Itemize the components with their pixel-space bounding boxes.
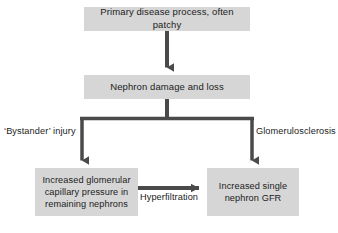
flowchart-diagram: Primary disease process, often patchy Ne… bbox=[0, 0, 338, 233]
node-primary-disease-process-label: Primary disease process, often patchy bbox=[84, 6, 250, 31]
node-increased-glomerular-capillary-pressure: Increased glomerular capillary pressure … bbox=[35, 168, 138, 216]
node-primary-disease-process: Primary disease process, often patchy bbox=[84, 7, 250, 31]
node-nephron-damage-and-loss: Nephron damage and loss bbox=[84, 75, 250, 99]
edge-label-hyperfiltration: Hyperfiltration bbox=[140, 192, 198, 203]
node-increased-glomerular-capillary-pressure-label: Increased glomerular capillary pressure … bbox=[38, 174, 134, 210]
edge-label-glomerulosclerosis: Glomerulosclerosis bbox=[256, 126, 336, 137]
node-increased-single-nephron-gfr-label: Increased single nephron GFR bbox=[215, 180, 291, 204]
node-increased-single-nephron-gfr: Increased single nephron GFR bbox=[207, 168, 299, 216]
node-nephron-damage-and-loss-label: Nephron damage and loss bbox=[106, 81, 228, 94]
edge-label-bystander-injury: ‘Bystander’ injury bbox=[4, 126, 76, 137]
